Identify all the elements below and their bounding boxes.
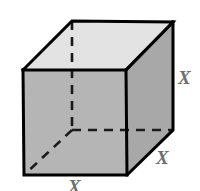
dimension-label-right-edge: X: [178, 68, 191, 87]
cube-drawing: [0, 0, 200, 191]
front-vertical-right-edge: [126, 70, 127, 175]
front-face: [23, 70, 127, 175]
dimension-label-bottom-edge: X: [68, 177, 81, 191]
cube-figure: X X X: [0, 0, 200, 191]
dimension-label-depth-edge: X: [156, 148, 169, 167]
